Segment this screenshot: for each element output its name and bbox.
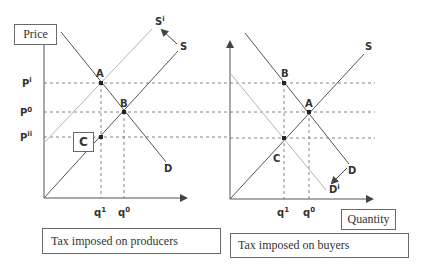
shifted-supply-label: Si [155, 15, 165, 27]
left-panel-caption: Tax imposed on producers [42, 228, 221, 254]
demand-label: D [164, 163, 172, 174]
p-ii-label: Pii [20, 130, 32, 143]
point-c-marker [99, 135, 103, 139]
p-i-label: Pi [22, 76, 32, 89]
point-a-label: A [96, 68, 104, 79]
point-b-marker [122, 110, 126, 114]
right-panel-caption: Tax imposed on buyers [230, 233, 409, 258]
q-0-label: q0 [118, 206, 130, 218]
point-a-marker [99, 81, 103, 85]
right-point-a-label: A [305, 98, 313, 109]
shifted-supply-curve [44, 29, 152, 143]
right-demand-curve [245, 33, 349, 164]
right-supply-curve [230, 54, 364, 199]
right-point-b-marker [282, 81, 286, 85]
right-point-c-marker [282, 136, 286, 140]
right-q-0-label: q0 [303, 206, 315, 218]
shifted-demand-curve [230, 73, 326, 190]
right-point-a-marker [307, 110, 311, 114]
point-c-label-box: C [73, 132, 94, 152]
right-q-1-label: q1 [277, 206, 289, 218]
right-point-c-label: C [273, 153, 280, 164]
p-0-label: P0 [20, 106, 32, 118]
supply-label: S [180, 41, 187, 52]
quantity-axis-label: Quantity [341, 209, 396, 230]
q-1-label: q1 [94, 206, 106, 218]
supply-shift-arrow-icon [162, 30, 177, 44]
right-point-b-label: B [281, 68, 289, 79]
price-axis-label: Price [14, 24, 57, 45]
right-demand-label: D [348, 165, 356, 176]
right-supply-label: S [365, 41, 372, 52]
demand-shift-arrow-icon [332, 168, 347, 183]
supply-curve [44, 51, 178, 198]
shifted-demand-label: Di [329, 183, 340, 195]
point-b-label: B [120, 98, 128, 109]
left-panel: A B Pi P0 Pii q1 q0 Si S D [20, 15, 228, 218]
right-panel: B A C q1 q0 S D Di [230, 33, 375, 218]
